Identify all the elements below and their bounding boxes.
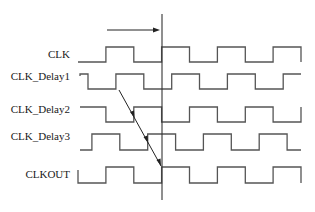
timing-diagram: CLKCLK_Delay1CLK_Delay2CLK_Delay3CLKOUT: [0, 0, 315, 212]
signal-waveforms: [78, 47, 301, 183]
propagation-arrow-head-2-icon: [144, 136, 149, 144]
signal-label-clkout: CLKOUT: [25, 168, 70, 180]
signal-labels: CLKCLK_Delay1CLK_Delay2CLK_Delay3CLKOUT: [11, 48, 71, 180]
propagation-arrow-shaft: [119, 90, 161, 166]
waveform-clk-delay1: [80, 74, 301, 89]
waveform-clk-delay2: [80, 107, 301, 122]
signal-label-clk-delay2: CLK_Delay2: [11, 103, 70, 115]
signal-label-clk: CLK: [48, 48, 70, 60]
propagation-arrow: [119, 90, 161, 166]
top-arrow-head-icon: [153, 28, 160, 33]
waveform-clkout: [78, 167, 301, 183]
signal-label-clk-delay3: CLK_Delay3: [11, 130, 71, 142]
signal-label-clk-delay1: CLK_Delay1: [11, 70, 70, 82]
waveform-clk-delay3: [80, 134, 301, 150]
waveform-clk: [78, 47, 301, 62]
top-direction-arrow: [107, 28, 160, 33]
